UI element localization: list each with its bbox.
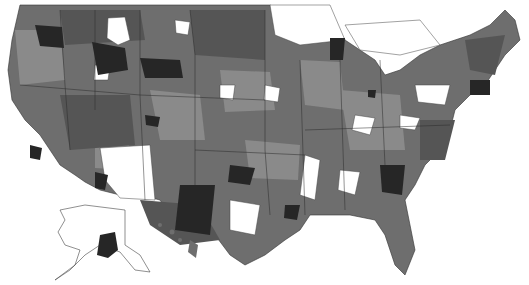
us-choropleth-map xyxy=(0,0,529,285)
alaska-inset xyxy=(55,205,150,280)
